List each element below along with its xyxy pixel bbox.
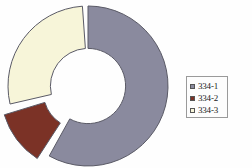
legend-label-334-2: 334-2: [198, 94, 218, 103]
doughnut-chart: 334-1 334-2 334-3: [0, 0, 252, 168]
legend-item-334-3[interactable]: 334-3: [190, 104, 225, 116]
slice-layer: [4, 6, 168, 166]
legend-label-334-1: 334-1: [198, 82, 218, 91]
legend-swatch-icon-334-3: [190, 108, 195, 113]
legend-swatch-icon-334-2: [190, 96, 195, 101]
chart-legend: 334-1 334-2 334-3: [186, 76, 228, 118]
legend-swatch-icon-334-1: [190, 84, 195, 89]
legend-item-334-1[interactable]: 334-1: [190, 80, 225, 92]
doughnut-svg: [0, 0, 180, 168]
pie-slice-334-3[interactable]: [8, 6, 85, 104]
chart-plot-area: [0, 0, 180, 168]
legend-label-334-3: 334-3: [198, 106, 218, 115]
legend-item-334-2[interactable]: 334-2: [190, 92, 225, 104]
